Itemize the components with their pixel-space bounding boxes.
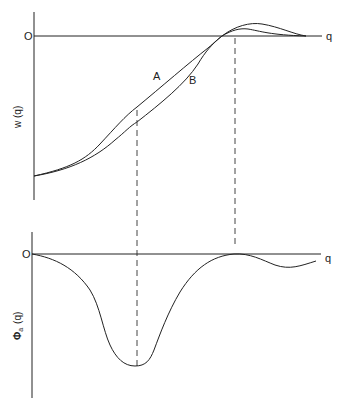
top-x-axis-label: q (326, 30, 332, 42)
phi-a-curve (32, 254, 316, 366)
bottom-y-axis-label: Φa(q) (12, 312, 24, 340)
phi-symbol: Φ (12, 332, 23, 340)
curve-b (34, 29, 306, 176)
top-y-axis-label: w (q) (12, 106, 23, 129)
diagram-canvas: O q w (q) A B O q Φa(q) (0, 0, 343, 409)
phi-argument: (q) (12, 312, 23, 324)
bottom-x-axis-label: q (325, 252, 331, 264)
top-plot: O q w (q) A B (12, 12, 332, 200)
curve-a (34, 24, 306, 177)
bottom-origin-label: O (22, 248, 31, 260)
curve-b-label: B (189, 74, 196, 86)
curve-a-label: A (153, 70, 161, 82)
bottom-plot: O q Φa(q) (12, 232, 331, 398)
top-origin-label: O (24, 30, 33, 42)
phi-subscript: a (17, 328, 24, 332)
svg-text:Φa(q): Φa(q) (12, 312, 24, 340)
